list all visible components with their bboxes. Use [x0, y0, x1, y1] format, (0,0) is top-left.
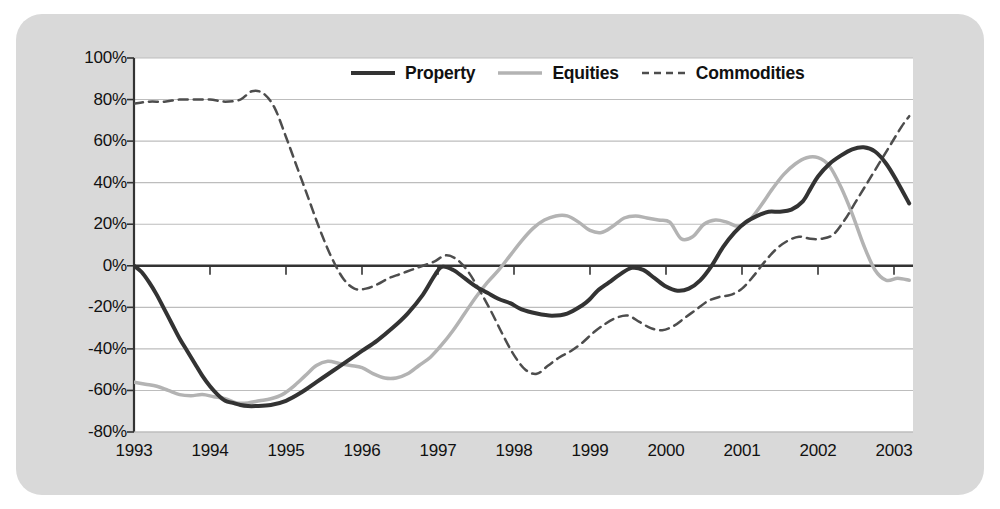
y-tick-label: -20%: [7, 297, 127, 317]
x-tick-label: 2003: [854, 441, 934, 461]
x-tick-label: 2000: [626, 441, 706, 461]
y-tick-label: 80%: [7, 90, 127, 110]
axis-lines-group: [134, 58, 913, 432]
y-tick-label: 60%: [7, 131, 127, 151]
x-tick-label: 1994: [170, 441, 250, 461]
legend-label-equities: Equities: [552, 63, 618, 84]
data-series-group: [134, 91, 909, 406]
chart-figure: 100%80%60%40%20%0%-20%-40%-60%-80% 19931…: [0, 0, 1000, 509]
legend-item-property: Property: [350, 63, 475, 84]
legend-label-property: Property: [405, 63, 475, 84]
x-tick-label: 2001: [702, 441, 782, 461]
gridlines-group: [134, 58, 913, 432]
dashed-dark-line-icon: [641, 67, 687, 79]
x-tick-label: 1997: [398, 441, 478, 461]
x-tick-label: 1999: [550, 441, 630, 461]
x-tick-label: 2002: [778, 441, 858, 461]
legend-item-commodities: Commodities: [641, 63, 805, 84]
solid-grey-line-icon: [497, 67, 543, 79]
x-tickmarks-group: [134, 266, 894, 275]
x-tick-label: 1993: [94, 441, 174, 461]
y-tick-label: -80%: [7, 422, 127, 442]
x-tick-label: 1998: [474, 441, 554, 461]
y-tick-label: 0%: [7, 256, 127, 276]
x-tick-label: 1995: [246, 441, 326, 461]
y-tick-label: 40%: [7, 173, 127, 193]
series-line-commodities: [134, 91, 909, 374]
legend-label-commodities: Commodities: [696, 63, 805, 84]
solid-dark-line-icon: [350, 67, 396, 79]
x-axis-tick-labels: 1993199419951996199719981999200020012002…: [0, 441, 1000, 471]
y-tick-label: 100%: [7, 48, 127, 68]
y-tick-label: -60%: [7, 380, 127, 400]
legend-item-equities: Equities: [497, 63, 618, 84]
chart-legend: Property Equities Commodities: [350, 60, 805, 86]
y-tick-label: -40%: [7, 339, 127, 359]
x-tick-label: 1996: [322, 441, 402, 461]
y-axis-tick-labels: 100%80%60%40%20%0%-20%-40%-60%-80%: [0, 0, 127, 509]
y-tick-label: 20%: [7, 214, 127, 234]
